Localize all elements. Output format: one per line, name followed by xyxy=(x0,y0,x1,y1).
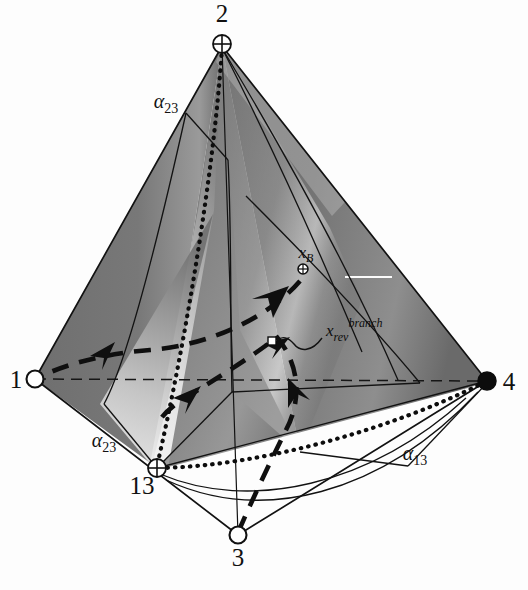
vertex-label-13: 13 xyxy=(130,472,155,499)
vertex-label-4: 4 xyxy=(503,368,516,395)
figure-canvas: 2 1 4 3 13 α23 α23 α13 xB xre xyxy=(0,0,528,590)
vertex-marker-3[interactable] xyxy=(230,527,247,544)
tetrahedron-diagram: 2 1 4 3 13 α23 α23 α13 xB xre xyxy=(0,0,528,590)
annotation-alpha23-top: α23 xyxy=(154,90,179,116)
vertex-label-3: 3 xyxy=(232,544,245,571)
vertex-label-2: 2 xyxy=(216,0,229,27)
vertex-marker-4[interactable] xyxy=(478,372,496,390)
annotation-alpha13-right: α13 xyxy=(403,442,428,468)
vertex-label-1: 1 xyxy=(10,366,23,393)
point-marker-xrev-branch[interactable] xyxy=(268,337,276,345)
vertex-marker-1[interactable] xyxy=(27,371,44,388)
vertex-marker-2[interactable] xyxy=(213,35,231,53)
point-marker-xB[interactable] xyxy=(298,264,308,274)
